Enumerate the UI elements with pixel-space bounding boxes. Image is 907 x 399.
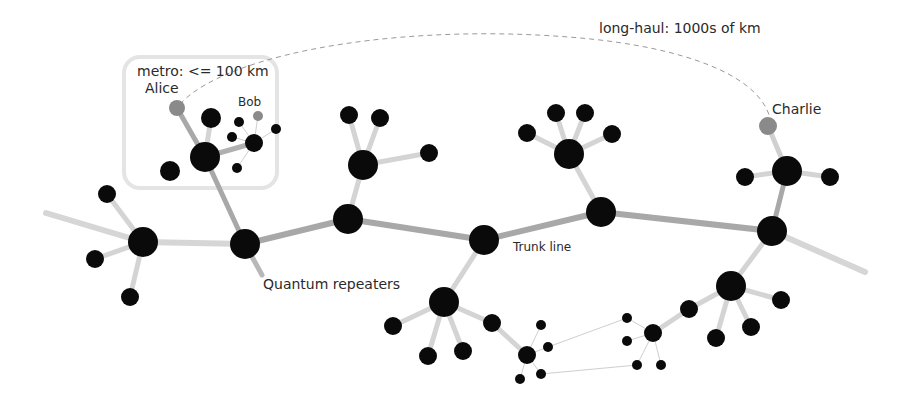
quantum-repeaters-label: Quantum repeaters xyxy=(263,276,400,292)
long-haul-label: long-haul: 1000s of km xyxy=(599,20,761,36)
trunk-line-label: Trunk line xyxy=(513,240,571,254)
charlie-label: Charlie xyxy=(772,101,821,117)
bob-node xyxy=(253,111,263,121)
local-links xyxy=(232,116,661,379)
alice-node xyxy=(169,100,185,116)
bob-label: Bob xyxy=(238,95,261,109)
charlie-node xyxy=(759,117,777,135)
metro-label: metro: <= 100 km xyxy=(137,63,269,79)
alice-label: Alice xyxy=(145,80,179,96)
quantum-network-diagram xyxy=(0,0,907,399)
trunk-links xyxy=(46,108,865,275)
